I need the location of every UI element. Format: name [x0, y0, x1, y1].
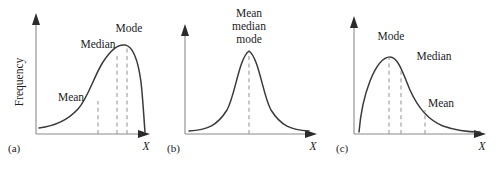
y-axis-arrowhead [32, 13, 40, 25]
median-label: median [232, 20, 266, 32]
panel-letter: (c) [336, 142, 349, 155]
mode-label: Mode [378, 30, 405, 42]
median-label: Median [416, 50, 451, 62]
y-axis-title: Frequency [13, 57, 26, 106]
mean-label: Mean [428, 97, 454, 109]
y-axis-arrowhead [181, 24, 189, 36]
mode-label: Mode [116, 22, 143, 34]
mode-label: mode [236, 33, 262, 45]
panel-b-plot: Mean median mode X (b) [165, 0, 330, 172]
panel-letter: (a) [8, 142, 21, 155]
panel-c-positive-skew: Mode Median Mean X (c) [330, 0, 499, 172]
panel-b-symmetric: Mean median mode X (b) [165, 0, 330, 172]
mean-label: Mean [58, 91, 84, 103]
panel-letter: (b) [167, 142, 180, 155]
distribution-curve [359, 57, 480, 132]
mean-label: Mean [236, 7, 262, 19]
panel-a-negative-skew: Mean Median Mode Frequency X (a) [0, 0, 165, 172]
skewness-distributions-figure: Mean Median Mode Frequency X (a) Mean [0, 0, 499, 172]
panel-c-plot: Mode Median Mean X (c) [330, 0, 499, 172]
median-label: Median [80, 38, 115, 50]
panel-a-plot: Mean Median Mode Frequency X (a) [0, 0, 165, 172]
x-axis-title: X [477, 140, 486, 152]
distribution-curve [39, 45, 145, 132]
x-axis-arrowhead [138, 130, 150, 138]
y-axis-arrowhead [350, 16, 358, 28]
x-axis-title: X [141, 140, 150, 152]
x-axis-title: X [308, 140, 317, 152]
